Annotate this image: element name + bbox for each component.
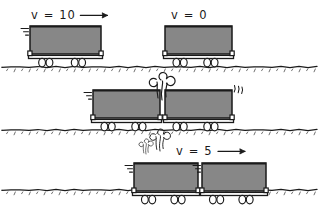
cart-body [30,26,101,54]
ground-hatch [261,69,263,71]
puff-cloud-loop [149,78,157,86]
ground-hatch [201,69,203,71]
cart-buffer-post [132,188,136,193]
panels-layer: v = 10v = 0v = 5 [2,8,317,204]
ground-hatch [224,69,226,73]
ground-hatch [284,132,286,136]
cart-after-cart-a [125,163,200,204]
ground-hatch [81,69,83,71]
ground-hatch [276,192,278,194]
ground-hatch [21,69,23,71]
ground-hatch [216,69,218,71]
ground-hatch [66,132,68,134]
jiggle-mark [242,87,243,93]
ground-hatch [119,192,121,196]
puff-burst-stroke [146,144,147,154]
ground-hatch [74,192,76,196]
cart-after-cart-b [193,163,268,204]
ground-hatch [299,132,301,136]
velocity-label-after-v-joined: v = 5 [176,144,213,158]
figure-canvas: v = 10v = 0v = 5 [0,0,327,213]
cart-chassis [201,192,268,195]
ground-hatch [96,132,98,134]
ground-hatch [59,132,61,136]
ground-hatch [44,192,46,196]
puff-cloud-loop [159,72,167,79]
ground-hatch [111,192,113,194]
ground-hatch [299,192,301,196]
ground-hatch [254,132,256,136]
ground-hatch [194,132,196,136]
cart-chassis [164,55,234,58]
cart-buffer-post [99,51,103,56]
ground-hatch [66,69,68,71]
cart-chassis [29,55,103,58]
ground-hatch [209,69,211,73]
cart-buffer-post [230,115,234,120]
ground-hatch [104,69,106,73]
ground-hatch [306,69,308,71]
cart-impact-cart-a [84,90,162,131]
ground-line-impact [2,129,317,135]
jiggle-mark [238,86,239,92]
ground-hatch [246,132,248,134]
ground-hatch [96,69,98,71]
puff-burst-stroke [163,137,164,148]
impact-puff-after-puff-residual [139,139,153,154]
cart-buffer-post [163,115,167,120]
ground-hatch [14,192,16,196]
cart-body [165,90,232,118]
ground-hatch [209,132,211,136]
ground-hatch [119,132,121,136]
ground-hatch [239,69,241,73]
cart-chassis [133,192,200,195]
ground-hatch [66,192,68,194]
ground-hatch [291,69,293,71]
ground-hatch [126,132,128,134]
ground-hatch [81,192,83,194]
cart-body [202,163,266,191]
ground-hatch [261,132,263,134]
ground-hatch [164,69,166,73]
motion-lines-before-cart-a [21,29,29,36]
ground-hatch [254,69,256,73]
ground-hatch [21,192,23,194]
ground-hatch [29,69,31,73]
ground-hatch [179,132,181,136]
cart-buffer-post [91,115,95,120]
cart-impact-cart-b [163,86,243,131]
ground-hatch [231,132,233,134]
cart-before-cart-b [163,26,234,67]
puff-cloud-loop [139,142,143,147]
ground-hatch [14,132,16,136]
ground-hatch [74,69,76,73]
ground-hatch [119,69,121,73]
ground-hatch [134,132,136,136]
puff-cloud-loop [144,139,148,143]
ground-hatch [51,69,53,71]
cart-wheel-pair [71,58,85,67]
cart-buffer-post [264,188,268,193]
ground-hatch [246,69,248,71]
jiggle-marks-impact-cart-b [234,86,242,94]
puff-cloud-loop [167,76,176,85]
ground-hatch [269,192,271,196]
cart-wheel-pair [173,58,187,67]
cart-before-cart-a [21,26,103,67]
ground-hatch [231,69,233,71]
puff-burst-stroke [159,136,160,151]
ground-hatch [36,132,38,134]
ground-hatch [269,69,271,73]
panel-before-collision: v = 10v = 0 [2,8,317,72]
impact-puff-impact-puff-below [150,129,171,151]
ground-hatch [6,69,8,71]
ground-hatch [21,132,23,134]
arrow-head [102,13,107,18]
velocity-arrow-after-v-joined [218,149,245,154]
cart-body [134,163,198,191]
puff-burst-stroke [161,81,162,100]
ground-hatch [194,69,196,73]
ground-hatch [59,69,61,73]
cart-body [165,26,232,54]
ground-hatch [239,132,241,136]
